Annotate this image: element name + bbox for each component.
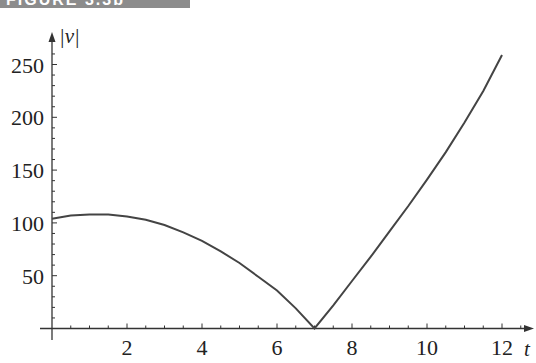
data-line bbox=[52, 55, 502, 329]
x-tick-label: 12 bbox=[491, 335, 513, 360]
x-tick-label: 8 bbox=[347, 335, 358, 360]
x-tick-label: 6 bbox=[272, 335, 283, 360]
ticks bbox=[52, 54, 521, 329]
x-tick-label: 10 bbox=[416, 335, 438, 360]
tick-labels: 2468101250100150200250 bbox=[11, 53, 513, 361]
x-tick-label: 2 bbox=[122, 335, 133, 360]
x-axis-arrow-icon bbox=[524, 325, 534, 332]
y-tick-label: 150 bbox=[11, 158, 44, 183]
line-chart: 2468101250100150200250 |v| t bbox=[0, 0, 536, 363]
x-axis-label: t bbox=[524, 337, 531, 361]
axes bbox=[40, 32, 534, 340]
y-tick-label: 200 bbox=[11, 105, 44, 130]
y-axis-label: |v| bbox=[59, 24, 80, 48]
y-axis-arrow-icon bbox=[49, 32, 56, 42]
x-tick-label: 4 bbox=[197, 335, 208, 360]
y-tick-label: 250 bbox=[11, 53, 44, 78]
y-tick-label: 100 bbox=[11, 211, 44, 236]
y-tick-label: 50 bbox=[22, 264, 44, 289]
